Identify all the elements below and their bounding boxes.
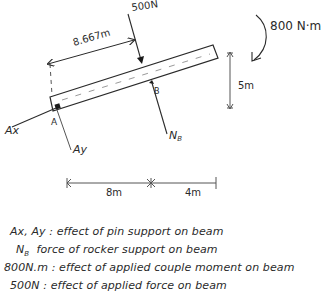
dimension-left-label: 8m — [106, 187, 122, 198]
dimension-slant-label: 8.667m — [72, 27, 112, 48]
nb-symbol: N — [169, 129, 177, 142]
pin-force-ay-label: Ay — [72, 143, 88, 156]
applied-force-label: 500N — [131, 0, 159, 13]
applied-force-arrowhead — [137, 56, 144, 64]
legend-description: force of rocker support on beam — [36, 243, 217, 256]
dimension-height: 5m — [227, 52, 254, 109]
couple-moment-label: 800 N·m — [270, 19, 321, 33]
dimension-right-label: 4m — [185, 187, 201, 198]
rocker-force-nb-line — [152, 83, 167, 134]
support-b: B NB — [149, 80, 182, 143]
legend-symbol: 800N.m — [4, 261, 48, 274]
rocker-force-nb-label: NB — [169, 129, 182, 143]
legend-symbol: Ax, Ay — [10, 225, 46, 238]
legend-symbol-sub: B — [24, 250, 29, 258]
pin-force-ay-line — [57, 110, 71, 150]
legend-row-pin: Ax, Ay : effect of pin support on beam — [10, 225, 223, 238]
legend-description: effect of pin support on beam — [57, 225, 224, 238]
dimension-horizontal: 8m 4m — [67, 177, 216, 198]
legend-separator: : — [43, 279, 47, 292]
nb-subscript: B — [177, 135, 182, 143]
couple-moment-arrowhead — [252, 52, 261, 61]
dimension-extension-line — [50, 64, 52, 95]
legend-separator: : — [52, 261, 56, 274]
couple-moment-800nm: 800 N·m — [252, 15, 321, 61]
dimension-arrow-line — [48, 40, 134, 64]
legend-symbol: NB — [16, 243, 29, 258]
dimension-height-label: 5m — [238, 80, 254, 91]
legend-separator: : — [49, 225, 53, 238]
legend-row-couple: 800N.m : effect of applied couple moment… — [4, 261, 294, 274]
legend-description: effect of applied force on beam — [51, 279, 227, 292]
applied-force-arrow — [128, 14, 141, 60]
applied-force-500n: 500N — [128, 0, 159, 64]
beam — [50, 45, 218, 111]
support-a: A Ax Ay — [4, 103, 88, 156]
legend-row-force: 500N : effect of applied force on beam — [10, 279, 227, 292]
point-a-label: A — [51, 117, 58, 127]
legend-description: effect of applied couple moment on beam — [59, 261, 294, 274]
pin-force-ax-label: Ax — [4, 124, 20, 137]
rocker-marker — [149, 80, 154, 84]
legend-symbol: 500N — [10, 279, 40, 292]
couple-moment-arc — [254, 15, 266, 60]
legend-row-rocker: NB force of rocker support on beam — [16, 243, 218, 258]
